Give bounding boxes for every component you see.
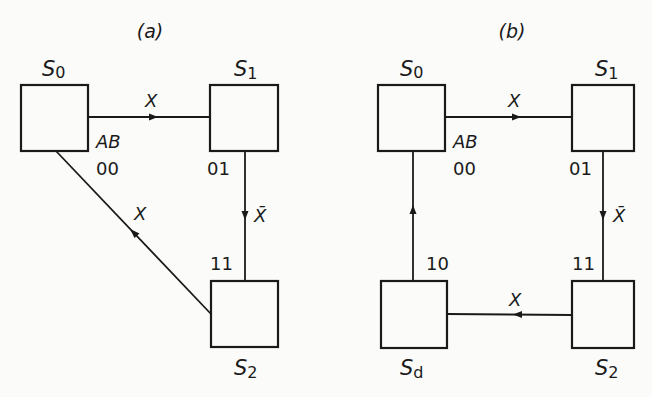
panel-b-caption: (b): [499, 20, 526, 42]
state-code-sd: 10: [426, 253, 449, 274]
state-label-s2: S2: [234, 356, 258, 382]
transition-label-s1-s2: X̄: [253, 205, 267, 226]
state-label-s1: S1: [595, 57, 619, 83]
state-box-sd: [381, 281, 447, 348]
arrowhead-left-icon: [513, 311, 522, 318]
transition-label-s2-s0: X: [133, 203, 147, 224]
state-code-s2: 11: [210, 253, 233, 274]
header-ab: AB: [95, 131, 121, 152]
transition-label-s0-s1: X: [144, 90, 158, 111]
panel-a: (a) S0 S1 S2 AB 00 01 11 X X̄ X: [21, 20, 278, 382]
state-code-s0: 00: [453, 158, 476, 179]
state-label-sd: Sd: [400, 356, 424, 382]
arrowhead-right-icon: [512, 114, 521, 121]
state-code-s1: 01: [207, 158, 230, 179]
state-label-s1: S1: [234, 57, 258, 83]
state-code-s0: 00: [96, 158, 119, 179]
state-code-s2: 11: [572, 253, 595, 274]
panel-b: (b) S0 S1 S2 Sd AB 00 01 11 10 X X̄ X: [378, 20, 634, 382]
state-label-s0: S0: [400, 57, 424, 82]
state-label-s2: S2: [595, 356, 619, 382]
state-box-s0: [21, 85, 88, 151]
state-box-s1: [210, 85, 278, 151]
transition-s2-sd: [447, 314, 572, 315]
transition-label-s2-sd: X: [508, 289, 522, 310]
arrowhead-down-icon: [600, 211, 607, 220]
state-box-s0: [378, 85, 445, 151]
state-box-s2: [211, 281, 278, 347]
panel-a-caption: (a): [137, 20, 163, 42]
transition-label-s0-s1: X: [507, 90, 521, 111]
transition-label-s1-s2: X̄: [612, 205, 626, 226]
state-code-s1: 01: [569, 158, 592, 179]
state-label-s0: S0: [42, 57, 66, 82]
arrowhead-right-icon: [149, 114, 158, 121]
state-box-s2: [572, 281, 634, 348]
state-box-s1: [572, 85, 634, 151]
arrowhead-down-icon: [242, 211, 249, 220]
arrowhead-up-icon: [410, 205, 417, 214]
header-ab: AB: [452, 131, 478, 152]
state-diagram-figure: (a) S0 S1 S2 AB 00 01 11 X X̄ X (b) S0: [0, 0, 652, 397]
